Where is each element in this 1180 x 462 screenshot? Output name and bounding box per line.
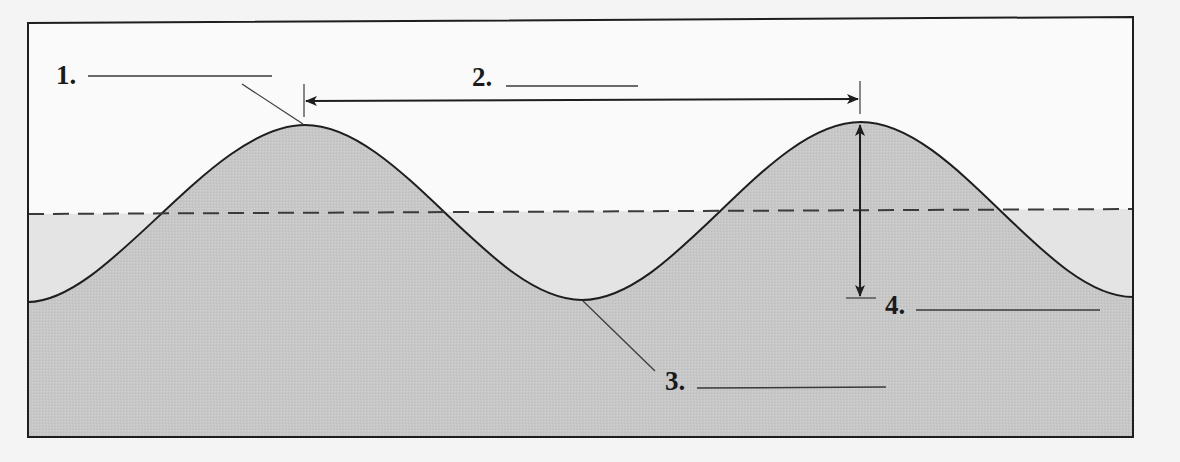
label-3-number: 3. bbox=[665, 366, 685, 396]
label-4-number: 4. bbox=[885, 290, 905, 320]
label-1-number: 1. bbox=[56, 60, 76, 90]
label-3-answer-blank[interactable] bbox=[697, 387, 886, 388]
label-2-number: 2. bbox=[472, 62, 492, 92]
wave-diagram: 1. 2. 3. 4. bbox=[0, 0, 1180, 462]
